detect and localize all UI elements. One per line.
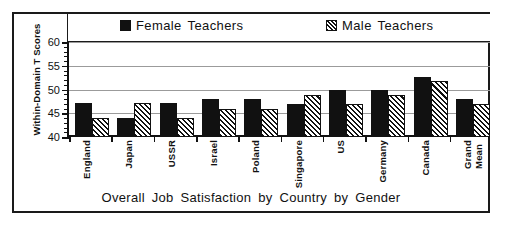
bar-group [160, 42, 194, 137]
y-axis-minor-tick [64, 132, 68, 133]
y-axis-tick-label: 55 [48, 60, 60, 71]
legend-label-male-teachers: Male Teachers [342, 18, 434, 33]
x-axis-category-label: Canada [421, 140, 432, 176]
bar-female-teachers [244, 99, 261, 137]
y-axis-tick [62, 90, 69, 92]
x-axis-category-label: USSR [167, 140, 178, 167]
bar-male-teachers [473, 104, 490, 137]
y-axis-minor-tick [64, 56, 68, 57]
y-axis-minor-tick [64, 47, 68, 48]
plot-area: 4045505560 [67, 42, 490, 137]
bar-male-teachers [431, 81, 448, 137]
bar-group [414, 42, 448, 137]
x-axis-category-label: Grand Mean [463, 140, 484, 169]
hatched-square-swatch [326, 20, 337, 31]
chart-legend: Female Teachers Male Teachers [67, 14, 490, 42]
x-axis-title: Overall Job Satisfaction by Country by G… [14, 190, 488, 205]
y-axis-tick [62, 113, 69, 115]
y-axis-tick [62, 137, 69, 139]
bar-female-teachers [456, 99, 473, 137]
x-axis-category-label: England [82, 140, 93, 179]
bar-male-teachers [92, 118, 109, 137]
x-axis-category-label: Germany [378, 140, 389, 183]
x-axis-category-label: Poland [251, 140, 262, 173]
y-axis-minor-tick [64, 123, 68, 124]
y-axis-minor-tick [64, 128, 68, 129]
bar-female-teachers [75, 103, 92, 137]
y-axis-minor-tick [64, 99, 68, 100]
bar-female-teachers [117, 118, 134, 137]
y-axis-tick-label: 50 [48, 84, 60, 95]
bar-female-teachers [414, 77, 431, 137]
y-axis-tick [62, 42, 69, 44]
bar-male-teachers [134, 103, 151, 137]
x-axis-category-label: US [336, 140, 347, 154]
y-axis-tick-label: 40 [48, 132, 60, 143]
bar-female-teachers [160, 103, 177, 137]
solid-square-swatch [120, 20, 131, 31]
y-axis-minor-tick [64, 94, 68, 95]
bar-female-teachers [329, 90, 346, 137]
legend-label-female-teachers: Female Teachers [136, 18, 243, 33]
chart-frame: Female Teachers Male Teachers Within-Dom… [12, 12, 490, 213]
y-axis-title: Within-Domain T Scores [31, 20, 42, 140]
bar-group [371, 42, 405, 137]
bar-female-teachers [202, 99, 219, 137]
bar-group [202, 42, 236, 137]
y-axis-tick-label: 45 [48, 108, 60, 119]
y-axis-minor-tick [64, 85, 68, 86]
bar-male-teachers [219, 109, 236, 137]
bar-male-teachers [388, 95, 405, 137]
bar-group [75, 42, 109, 137]
y-axis-minor-tick [64, 52, 68, 53]
x-axis-category-label: Japan [124, 140, 135, 168]
x-axis-category-label: Singapore [294, 140, 305, 188]
bar-female-teachers [287, 104, 304, 137]
y-axis-tick [62, 66, 69, 68]
bar-male-teachers [177, 118, 194, 137]
x-axis-category-label: Israel [209, 140, 220, 166]
bar-female-teachers [371, 90, 388, 137]
bar-group [117, 42, 151, 137]
y-axis-minor-tick [64, 104, 68, 105]
bar-group [287, 42, 321, 137]
y-axis-tick-label: 60 [48, 37, 60, 48]
y-axis-minor-tick [64, 61, 68, 62]
figure-root: Female Teachers Male Teachers Within-Dom… [0, 0, 507, 231]
y-axis-minor-tick [64, 71, 68, 72]
bar-group [244, 42, 278, 137]
bar-male-teachers [261, 109, 278, 137]
legend-entry-male-teachers: Male Teachers [326, 18, 434, 33]
bar-male-teachers [346, 104, 363, 137]
y-axis-minor-tick [64, 118, 68, 119]
y-axis-minor-tick [64, 80, 68, 81]
y-axis-minor-tick [64, 75, 68, 76]
bar-group [456, 42, 490, 137]
y-axis-minor-tick [64, 109, 68, 110]
legend-entry-female-teachers: Female Teachers [120, 18, 243, 33]
bar-group [329, 42, 363, 137]
bar-male-teachers [304, 95, 321, 137]
